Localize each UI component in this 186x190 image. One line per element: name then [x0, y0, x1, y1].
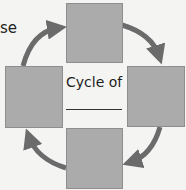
cycle-box-bottom	[66, 128, 123, 189]
center-title: Cycle of	[66, 75, 126, 89]
cycle-box-left	[5, 66, 63, 128]
arrow-left-to-top-icon	[23, 28, 58, 66]
arrow-right-to-bottom-icon	[131, 127, 160, 162]
cycle-diagram: se Cycle of	[0, 0, 186, 190]
arrow-top-to-right-icon	[122, 25, 159, 56]
cycle-box-right	[127, 66, 185, 127]
center-blank-line	[66, 109, 122, 110]
cycle-box-top	[66, 3, 123, 63]
arrow-bottom-to-left-icon	[29, 137, 66, 168]
